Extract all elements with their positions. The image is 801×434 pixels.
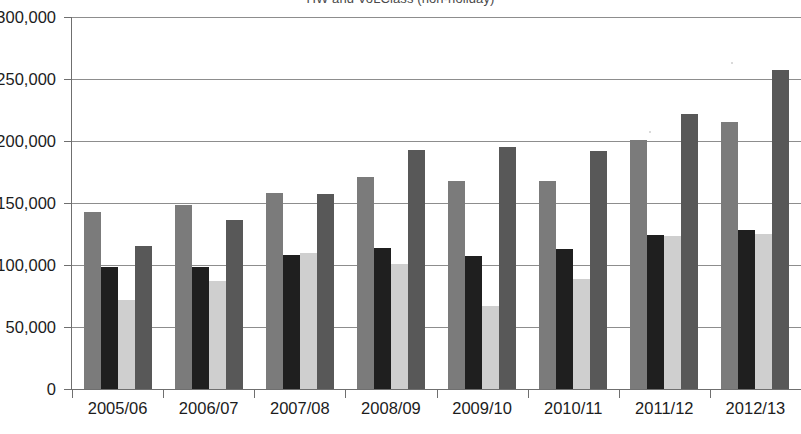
y-axis-tick [64,389,72,390]
x-axis-label: 2009/10 [452,399,512,418]
x-axis-tick [254,389,255,398]
bar [448,181,465,389]
y-axis-label: 150,000 [0,194,56,213]
bar [647,235,664,389]
x-axis-label: 2010/11 [544,399,602,418]
y-axis-tick [64,17,72,18]
bar [209,281,226,389]
y-axis-tick [64,327,72,328]
bar [374,248,391,389]
x-axis-label: 2008/09 [361,399,421,418]
bar [573,279,590,389]
bar-chart: HW and VoLClass (non-holiday) 050,000100… [0,0,801,434]
x-axis-tick [437,389,438,398]
x-axis-label: 2011/12 [635,399,693,418]
y-axis-label: 0 [0,380,56,399]
bar [357,177,374,389]
bar [590,151,607,389]
y-axis-tick [64,141,72,142]
bar [556,249,573,389]
bar [300,253,317,389]
y-axis-label: 100,000 [0,256,56,275]
x-axis-tick [619,389,620,398]
bar [681,114,698,389]
x-axis-label: 2012/13 [726,399,786,418]
x-axis-tick [528,389,529,398]
y-axis-label: 300,000 [0,8,56,27]
bar [408,150,425,389]
y-axis-tick [64,203,72,204]
x-axis-tick [345,389,346,398]
y-axis-label: 200,000 [0,132,56,151]
gridline [72,79,801,80]
bar [266,193,283,389]
bar [101,267,118,389]
bar [391,264,408,389]
x-axis-tick [710,389,711,398]
y-axis-tick [64,265,72,266]
x-axis-label: 2007/08 [270,399,330,418]
bar [755,234,772,389]
bar [317,194,334,389]
y-axis-label: 250,000 [0,70,56,89]
x-axis-label: 2005/06 [88,399,148,418]
bar [283,255,300,389]
bar [118,300,135,389]
bar [738,230,755,389]
bar [664,236,681,389]
bar [772,70,789,389]
bar [482,306,499,389]
bar [630,140,647,389]
plot-area [72,17,801,389]
bar [84,212,101,389]
chart-title: HW and VoLClass (non-holiday) [0,0,801,6]
x-axis-label: 2006/07 [179,399,239,418]
y-axis-tick [64,79,72,80]
bar [499,147,516,389]
x-axis-tick [72,389,73,398]
x-axis-tick [163,389,164,398]
bar [465,256,482,389]
bar [539,181,556,389]
scan-speckle [649,131,651,133]
bar [175,205,192,389]
y-axis-label: 50,000 [0,318,56,337]
bar [135,246,152,389]
bar [226,220,243,389]
bar [721,122,738,389]
bar [192,267,209,389]
scan-speckle [731,62,733,64]
gridline [72,17,801,18]
